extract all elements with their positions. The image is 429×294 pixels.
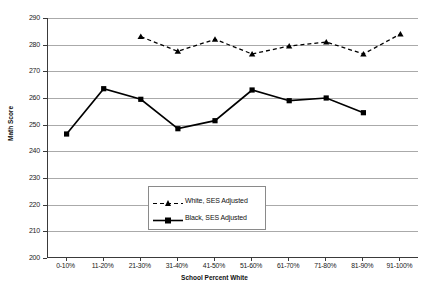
y-axis-tick-label: 280 xyxy=(0,41,40,48)
data-point-triangle-marker xyxy=(397,31,403,37)
data-point-triangle-marker xyxy=(212,36,218,42)
solid-square-key-icon xyxy=(153,212,183,223)
dashed-triangle-key-icon xyxy=(153,195,183,206)
x-axis-title: School Percent White xyxy=(0,274,429,281)
series-line xyxy=(141,34,401,54)
x-axis-tick-mark xyxy=(251,258,252,261)
x-axis-tick-mark xyxy=(362,258,363,261)
legend-item-black[interactable]: Black, SES Adjusted xyxy=(153,209,261,226)
data-point-triangle-marker xyxy=(286,43,292,49)
x-axis-tick-mark xyxy=(399,258,400,261)
y-axis-tick-label: 270 xyxy=(0,67,40,74)
y-axis-tick-label: 260 xyxy=(0,94,40,101)
data-point-square-marker xyxy=(324,95,329,100)
x-axis-tick-mark xyxy=(177,258,178,261)
y-axis-tick-label: 220 xyxy=(0,201,40,208)
y-axis-tick-label: 290 xyxy=(0,14,40,21)
y-axis-tick-mark xyxy=(43,258,47,259)
x-axis-tick-mark xyxy=(214,258,215,261)
legend-label-black: Black, SES Adjusted xyxy=(183,214,247,221)
data-point-square-marker xyxy=(101,86,106,91)
x-axis-tick-mark xyxy=(140,258,141,261)
legend-label-white: White, SES Adjusted xyxy=(183,197,248,204)
chart-legend: White, SES Adjusted Black, SES Adjusted xyxy=(148,186,266,230)
legend-item-white[interactable]: White, SES Adjusted xyxy=(153,192,261,209)
data-point-square-marker xyxy=(361,110,366,115)
y-axis-tick-label: 230 xyxy=(0,174,40,181)
y-axis-tick-label: 250 xyxy=(0,121,40,128)
series-line xyxy=(67,89,364,134)
data-point-square-marker xyxy=(175,126,180,131)
data-point-square-marker xyxy=(250,87,255,92)
x-axis-tick-mark xyxy=(288,258,289,261)
x-axis-tick-label: 91-100% xyxy=(376,262,422,269)
x-axis-tick-mark xyxy=(325,258,326,261)
x-axis-tick-mark xyxy=(66,258,67,261)
y-axis-tick-label: 240 xyxy=(0,147,40,154)
data-point-square-marker xyxy=(212,118,217,123)
data-point-triangle-marker xyxy=(360,51,366,57)
y-axis-tick-label: 200 xyxy=(0,254,40,261)
y-axis-tick-label: 210 xyxy=(0,227,40,234)
math-score-line-chart: Math Score 29028027026025024023022021020… xyxy=(0,0,429,294)
data-point-square-marker xyxy=(138,97,143,102)
data-point-triangle-marker xyxy=(138,34,145,40)
data-point-square-marker xyxy=(64,131,69,136)
data-point-square-marker xyxy=(287,98,292,103)
x-axis-tick-mark xyxy=(103,258,104,261)
